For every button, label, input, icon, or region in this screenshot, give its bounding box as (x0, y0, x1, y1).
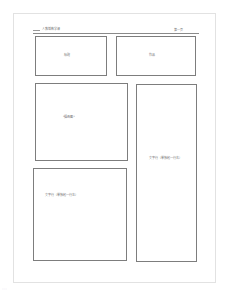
header-left-tick (33, 30, 40, 31)
illustration-box: "插画图" (35, 83, 128, 161)
header-divider (33, 33, 199, 34)
title-box: 标题 (35, 36, 107, 76)
footer-mark: ·:·:· (2, 287, 7, 291)
text-right-box-label: 文字行（单独起一行右） (149, 156, 182, 160)
title-box-label: 标题 (64, 53, 70, 57)
work-box-label: 作品 (149, 53, 155, 57)
illustration-box-label: "插画图" (63, 115, 75, 119)
work-box: 作品 (116, 36, 196, 76)
text-left-box-label: 文字行（单独起一行左） (45, 193, 78, 197)
text-right-box: 文字行（单独起一行右） (136, 84, 197, 262)
header-right-text: 第一页 (174, 28, 183, 32)
header-left-text: 人教版数学课 (42, 27, 61, 31)
text-left-box: 文字行（单独起一行左） (33, 168, 127, 261)
